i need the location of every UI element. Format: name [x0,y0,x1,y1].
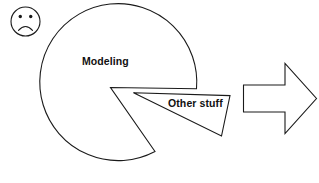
sad-face-icon [11,7,40,36]
sad-face-left-eye [19,15,22,18]
pie-label-other-stuff: Other stuff [168,98,223,109]
diagram-figure [0,0,319,183]
pie-slice-modeling [40,4,197,161]
pie-label-modeling: Modeling [82,56,129,67]
sad-face-frown-mouth [19,27,33,31]
right-arrow-icon [244,64,317,134]
sad-face-right-eye [29,15,32,18]
diagram-canvas: Modeling Other stuff [0,0,319,183]
sad-face-outline [11,7,40,36]
